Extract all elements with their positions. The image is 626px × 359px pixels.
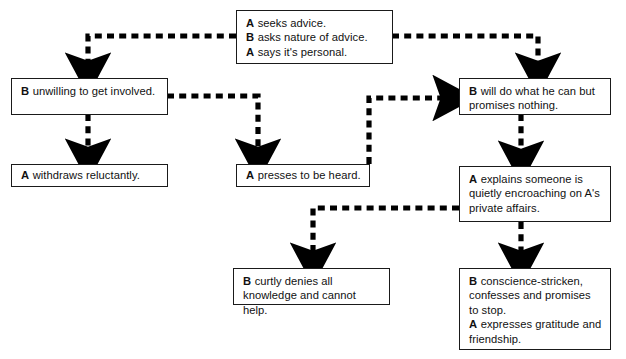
node-line: Aexpresses gratitude and friendship. [469, 317, 603, 346]
line-text: withdraws reluctantly. [33, 169, 140, 181]
line-text: asks nature of advice. [258, 31, 368, 43]
edge-start-to-unwilling [88, 36, 236, 70]
speaker-label: A [246, 46, 258, 58]
node-conscience-stricken[interactable]: Bconscience-stricken, confesses and prom… [459, 268, 611, 350]
line-text: conscience-stricken, confesses and promi… [469, 275, 591, 316]
node-seeks-advice[interactable]: Aseeks advice. Basks nature of advice. A… [236, 10, 393, 64]
edge-start-to-will-do [392, 36, 538, 70]
speaker-label: A [246, 17, 258, 29]
speaker-label: A [469, 173, 481, 185]
line-text: explains someone is quietly encroaching … [469, 173, 600, 214]
node-line: Bconscience-stricken, confesses and prom… [469, 274, 603, 317]
node-line: Awithdraws reluctantly. [21, 168, 160, 182]
node-explains-encroaching[interactable]: Aexplains someone is quietly encroaching… [459, 166, 611, 222]
line-text: says it's personal. [258, 46, 348, 58]
speaker-label: B [246, 31, 258, 43]
line-text: will do what he can but promises nothing… [469, 85, 595, 111]
line-text: unwilling to get involved. [33, 85, 156, 97]
flowchart-diagram: Aseeks advice. Basks nature of advice. A… [0, 0, 626, 359]
node-curtly-denies-all[interactable]: Bcurtly denies all knowledge and cannot … [233, 268, 390, 305]
speaker-label: B [469, 85, 481, 97]
line-text: seeks advice. [258, 17, 326, 29]
speaker-label: A [469, 318, 481, 330]
node-line: Aseeks advice. [246, 16, 385, 30]
edge-presses-to-will-do [369, 98, 450, 164]
line-text: presses to be heard. [258, 169, 361, 181]
node-line: Aexplains someone is quietly encroaching… [469, 172, 603, 215]
line-text: curtly denies all knowledge and cannot h… [243, 275, 356, 316]
node-withdraws-reluctantly[interactable]: Awithdraws reluctantly. [11, 164, 168, 187]
speaker-label: A [246, 169, 258, 181]
speaker-label: B [469, 275, 481, 287]
node-line: Asays it's personal. [246, 45, 385, 59]
node-line: Bwill do what he can but promises nothin… [469, 84, 603, 113]
node-line: Apresses to be heard. [246, 168, 362, 182]
speaker-label: B [243, 275, 255, 287]
edge-explains-to-denies [313, 208, 459, 260]
node-line: Bunwilling to get involved. [21, 84, 160, 98]
speaker-label: B [21, 85, 33, 97]
speaker-label: A [21, 169, 33, 181]
node-unwilling-to-get-involved[interactable]: Bunwilling to get involved. [11, 78, 168, 115]
node-line: Basks nature of advice. [246, 30, 385, 44]
node-presses-to-be-heard[interactable]: Apresses to be heard. [236, 164, 370, 187]
edge-unwilling-to-presses [167, 96, 258, 156]
node-line: Bcurtly denies all knowledge and cannot … [243, 274, 382, 317]
node-will-do-what-he-can[interactable]: Bwill do what he can but promises nothin… [459, 78, 611, 115]
line-text: expresses gratitude and friendship. [469, 318, 601, 344]
